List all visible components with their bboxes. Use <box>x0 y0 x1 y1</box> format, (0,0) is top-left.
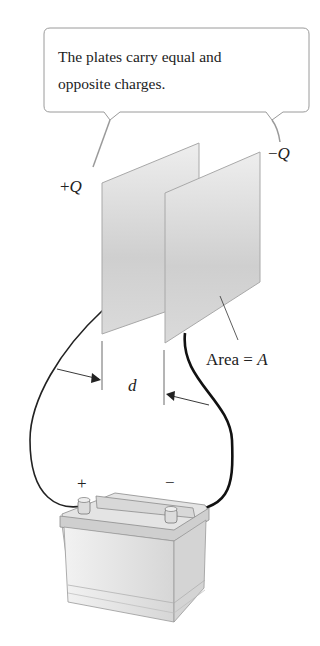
positive-charge-label: +Q <box>60 177 82 197</box>
battery <box>60 493 209 622</box>
separation-label: d <box>128 376 137 396</box>
wire-positive <box>30 310 103 507</box>
arrowhead-right-icon <box>166 391 175 401</box>
area-label: Area = A <box>206 350 268 370</box>
battery-minus-label: − <box>165 473 175 493</box>
battery-plus-label: + <box>77 474 87 494</box>
arrowhead-left-icon <box>91 373 101 383</box>
callout-line-2: opposite charges. <box>58 70 308 97</box>
negative-charge-label: −Q <box>268 144 290 164</box>
callout-line-1: The plates carry equal and <box>58 43 308 70</box>
callout-pointer-right <box>272 120 280 142</box>
area-leader-line <box>220 296 238 340</box>
callout-text: The plates carry equal and opposite char… <box>58 43 308 97</box>
callout-pointer-left <box>93 120 110 167</box>
